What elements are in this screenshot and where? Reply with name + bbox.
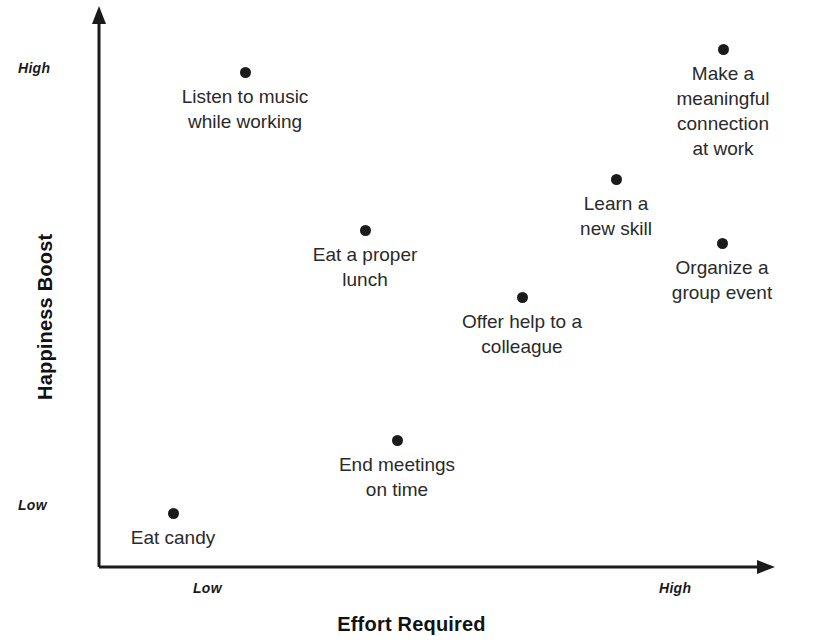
data-point-label: Eat candy: [131, 525, 216, 550]
data-point[interactable]: [718, 44, 729, 55]
data-point[interactable]: [360, 225, 371, 236]
y-axis-title: Happiness Boost: [34, 234, 57, 400]
data-point-label: End meetings on time: [339, 452, 455, 502]
x-axis-title: Effort Required: [0, 613, 823, 636]
data-point-label: Make a meaningful connection at work: [673, 61, 773, 161]
y-axis-tick-low: Low: [18, 497, 47, 513]
data-point[interactable]: [392, 435, 403, 446]
y-axis-tick-high: High: [18, 60, 50, 76]
data-point-label: Learn a new skill: [580, 191, 652, 241]
data-point[interactable]: [240, 67, 251, 78]
y-axis-line: [92, 6, 106, 567]
data-point-label: Organize a group event: [672, 255, 772, 305]
scatter-chart-canvas: Happiness Boost Effort Required High Low…: [0, 0, 823, 644]
data-point-label: Listen to music while working: [182, 84, 309, 134]
x-axis-tick-low: Low: [193, 580, 222, 596]
data-point[interactable]: [517, 292, 528, 303]
data-point-label: Offer help to a colleague: [462, 309, 582, 359]
x-axis-tick-high: High: [659, 580, 691, 596]
data-point[interactable]: [168, 508, 179, 519]
x-axis-line: [99, 560, 775, 574]
data-point[interactable]: [717, 238, 728, 249]
data-point-label: Eat a proper lunch: [313, 242, 418, 292]
data-point[interactable]: [611, 174, 622, 185]
